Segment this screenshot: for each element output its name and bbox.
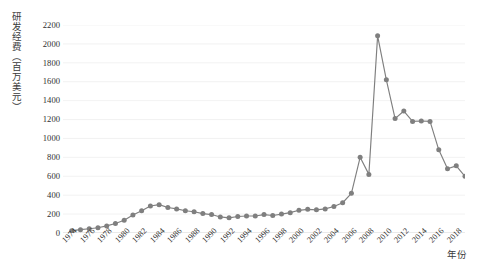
x-axis-tick-label: 2008 — [358, 227, 376, 245]
x-axis-tick-label: 1992 — [219, 227, 237, 245]
x-axis-tick-label: 1998 — [271, 227, 289, 245]
x-axis-tick-label: 1994 — [236, 227, 254, 245]
x-axis-tick-label: 2000 — [288, 227, 306, 245]
x-axis-tick-labels: 1974197619781980198219841986198819901992… — [0, 0, 484, 276]
x-axis-tick-label: 1990 — [201, 227, 219, 245]
x-axis-tick-label: 1976 — [79, 227, 97, 245]
x-axis-tick-label: 1978 — [96, 227, 114, 245]
x-axis-tick-label: 2018 — [446, 227, 464, 245]
x-axis-tick-label: 1986 — [166, 227, 184, 245]
x-axis-tick-label: 1980 — [114, 227, 132, 245]
chart-figure: 研发经费（百万美元） 22002000180016001400120010008… — [0, 0, 484, 276]
x-axis-title: 年份 — [447, 247, 467, 261]
x-axis-tick-label: 2006 — [341, 227, 359, 245]
x-axis-tick-label: 1982 — [131, 227, 149, 245]
x-axis-tick-label: 1984 — [149, 227, 167, 245]
x-axis-tick-label: 1988 — [184, 227, 202, 245]
x-axis-tick-label: 2010 — [376, 227, 394, 245]
x-axis-tick-label: 1996 — [254, 227, 272, 245]
x-axis-tick-label: 2012 — [393, 227, 411, 245]
x-axis-tick-label: 2002 — [306, 227, 324, 245]
x-axis-tick-label: 2004 — [323, 227, 341, 245]
x-axis-tick-label: 2016 — [428, 227, 446, 245]
x-axis-tick-label: 1974 — [61, 227, 79, 245]
x-axis-tick-label: 2014 — [411, 227, 429, 245]
